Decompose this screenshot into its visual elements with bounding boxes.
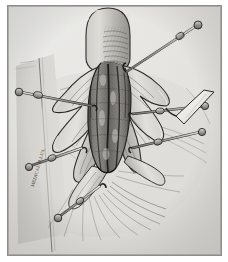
surgical-illustration — [8, 6, 221, 255]
figure-frame: MEDICAL ILLUS. — [7, 5, 222, 256]
illustration-page: MEDICAL ILLUS. Surgical exposure of digi… — [0, 0, 228, 262]
tone-vignette — [8, 6, 221, 255]
